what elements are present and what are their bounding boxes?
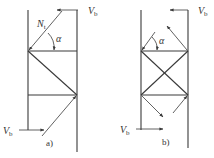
lower-left-force-arrow-b <box>142 96 163 117</box>
lower-right-force-arrow-b <box>173 96 187 113</box>
angle-arc-a <box>48 33 54 50</box>
angle-arc-b <box>152 37 157 50</box>
braced-frame-diagram: Vb Nt α Vb a) Vb α <box>0 0 214 158</box>
top-force-label-a: Vb <box>88 5 98 18</box>
figure-b: Vb α Vb b) <box>120 5 208 148</box>
figure-a: Vb Nt α Vb a) <box>3 5 98 152</box>
middle-diagonal-a <box>28 51 77 95</box>
caption-b: b) <box>162 137 170 147</box>
upper-left-force-arrow-b <box>142 32 155 50</box>
angle-label-a: α <box>56 33 62 44</box>
bottom-force-label-a: Vb <box>3 125 13 138</box>
top-force-label-b: Vb <box>198 5 208 18</box>
bottom-force-label-b: Vb <box>120 124 130 137</box>
caption-a: a) <box>46 138 53 148</box>
tension-force-label-a: Nt <box>36 18 46 31</box>
angle-label-b: α <box>159 35 165 46</box>
bottom-diagonal-a <box>42 96 76 136</box>
upper-right-force-arrow-b <box>167 26 187 50</box>
